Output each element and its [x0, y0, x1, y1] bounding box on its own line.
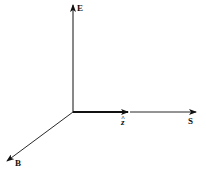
- b-label: B: [15, 158, 21, 168]
- e-label: E: [77, 3, 83, 13]
- field-vector-diagram: E ^ z S B: [0, 0, 206, 172]
- b-field-arrow: [7, 112, 73, 161]
- s-label: S: [188, 116, 193, 126]
- z-hat-label: z: [120, 117, 125, 127]
